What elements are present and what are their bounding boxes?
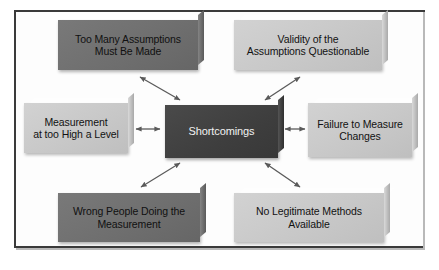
node-no-legitimate-methods[interactable]: No Legitimate Methods Available bbox=[234, 193, 384, 242]
node-label: Validity of the Assumptions Questionable bbox=[238, 33, 378, 58]
node-label: Shortcomings bbox=[169, 125, 274, 138]
node-too-many-assumptions[interactable]: Too Many Assumptions Must Be Made bbox=[58, 20, 198, 70]
node-wrong-people-measuring[interactable]: Wrong People Doing the Measurement bbox=[58, 193, 200, 242]
diagram-canvas: Too Many Assumptions Must Be Made Validi… bbox=[0, 0, 439, 270]
node-label: Wrong People Doing the Measurement bbox=[62, 205, 196, 230]
node-label: Failure to Measure Changes bbox=[312, 118, 408, 143]
node-shortcomings[interactable]: Shortcomings bbox=[165, 105, 278, 158]
node-failure-to-measure-changes[interactable]: Failure to Measure Changes bbox=[308, 103, 412, 157]
node-label: Measurement at too High a Level bbox=[28, 116, 124, 141]
node-label: No Legitimate Methods Available bbox=[238, 205, 380, 230]
node-label: Too Many Assumptions Must Be Made bbox=[62, 33, 194, 58]
node-measurement-too-high[interactable]: Measurement at too High a Level bbox=[24, 103, 128, 153]
node-validity-questionable[interactable]: Validity of the Assumptions Questionable bbox=[234, 20, 382, 70]
